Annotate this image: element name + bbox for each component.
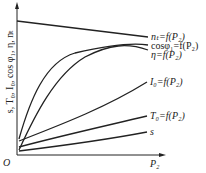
origin-label: O [3,158,10,168]
label-t0: T₀=f(P₂) [150,111,185,121]
label-eta: η=f(P₂) [151,50,182,60]
y-axis-label: s, T₀, I₀, cos φ₁, η, nₜ [4,17,15,127]
curve-eta [19,46,148,150]
label-i0: I₀=f(P₂) [150,77,183,87]
x-axis-arrow-icon [159,153,166,157]
x-axis-label: P₂ [150,159,160,169]
label-s: s [150,127,154,137]
characteristic-curves-diagram: s, T₀, I₀, cos φ₁, η, nₜ O P₂ nₜ=f(P₂) c… [0,0,206,173]
curve-nt [17,21,148,37]
y-axis-arrow-icon [15,2,19,9]
